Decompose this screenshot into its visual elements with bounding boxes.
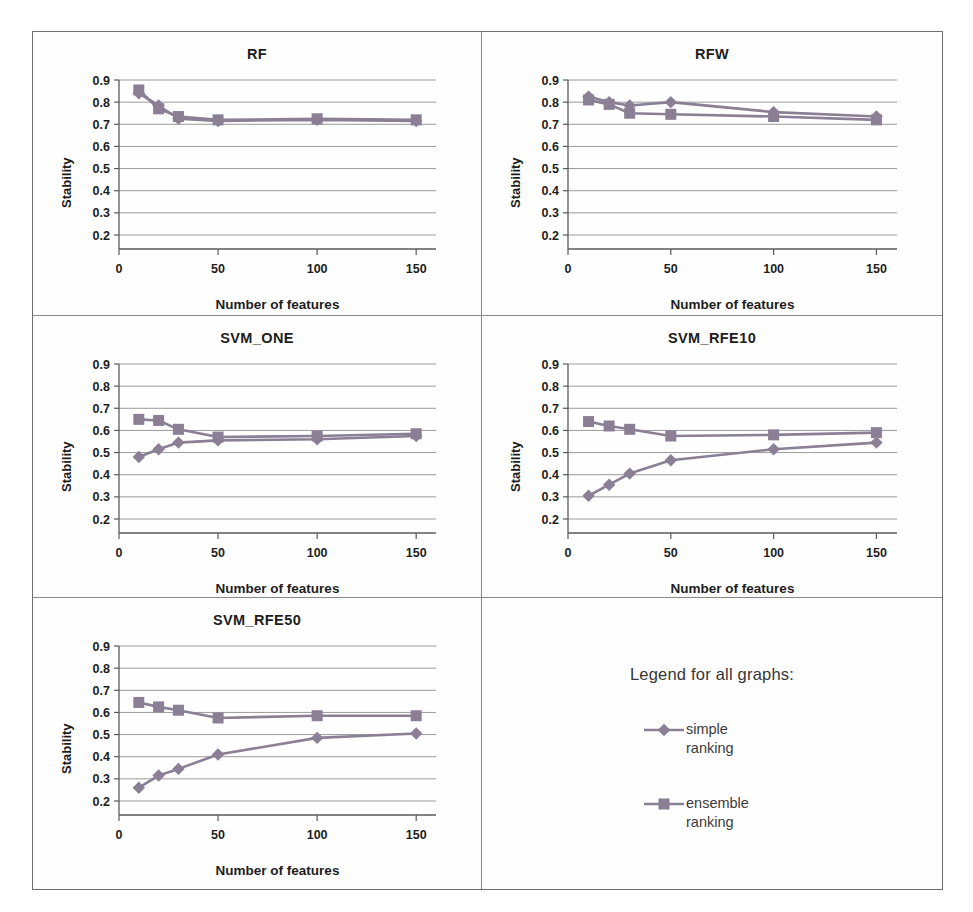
axes [563,364,897,539]
y-axis-title: Stability [508,441,523,492]
legend-item-simple-ranking: simpleranking [642,720,882,758]
square-marker [153,103,164,114]
diamond-marker [152,769,164,781]
square-marker [312,710,323,721]
y-tick-label: 0.9 [542,74,559,88]
y-tick-label: 0.7 [93,402,110,416]
y-tick-label: 0.4 [542,184,559,198]
y-tick-label: 0.8 [542,96,559,110]
x-tick-label: 50 [664,546,678,560]
y-tick-label: 0.5 [93,446,110,460]
chart-panel-svm-one: SVM_ONE 0.20.30.40.50.60.70.80.905010015… [33,316,482,598]
y-tick-label: 0.3 [542,206,559,220]
square-marker [871,427,882,438]
square-marker [624,424,635,435]
y-tick-label: 0.6 [542,140,559,154]
y-tick-label: 0.2 [93,513,110,527]
square-marker [213,432,224,443]
x-tick-label: 100 [763,262,784,276]
square-marker [133,697,144,708]
plot-svg: 0.20.30.40.50.60.70.80.9050100150 [33,32,481,315]
square-marker [133,414,144,425]
square-marker [604,99,615,110]
y-axis-title: Stability [59,441,74,492]
x-tick-label: 150 [406,262,427,276]
y-tick-label: 0.3 [93,772,110,786]
chart-panel-svm-rfe10: SVM_RFE10 0.20.30.40.50.60.70.80.9050100… [482,316,942,598]
gridlines [119,646,436,801]
legend-panel: Legend for all graphs: simpleranking [482,598,942,889]
x-tick-label: 0 [565,546,572,560]
square-marker [624,108,635,119]
legend-label-line1: ensemble [686,795,749,811]
diamond-marker [582,490,594,502]
square-marker [173,705,184,716]
y-tick-label: 0.5 [542,162,559,176]
x-tick-label: 0 [565,262,572,276]
square-marker [411,710,422,721]
x-tick-label: 0 [116,546,123,560]
chart-panel-rf: RF 0.20.30.40.50.60.70.80.9050100150Stab… [33,32,482,316]
square-marker [133,84,144,95]
square-marker [213,114,224,125]
legend-item-label: ensembleranking [686,794,749,832]
y-tick-label: 0.6 [93,424,110,438]
y-tick-label: 0.8 [93,662,110,676]
y-tick-label: 0.8 [542,380,559,394]
diamond-marker [410,727,422,739]
plot-svg: 0.20.30.40.50.60.70.80.9050100150 [33,316,481,597]
square-marker [665,109,676,120]
y-tick-label: 0.5 [93,728,110,742]
chart-panel-svm-rfe50: SVM_RFE50 0.20.30.40.50.60.70.80.9050100… [33,598,482,889]
plot-area: 0.20.30.40.50.60.70.80.9050100150Stabili… [33,316,481,597]
x-tick-label: 50 [211,546,225,560]
y-tick-label: 0.5 [542,446,559,460]
legend-label-line2: ranking [686,814,734,830]
y-tick-label: 0.2 [542,513,559,527]
square-marker [411,114,422,125]
square-marker [312,430,323,441]
legend-item-ensemble-ranking: ensembleranking [642,794,882,832]
series-line [589,443,877,496]
x-axis-title: Number of features [119,863,436,878]
plot-area: 0.20.30.40.50.60.70.80.9050100150Stabili… [482,316,942,597]
x-tick-label: 0 [116,828,123,842]
y-tick-label: 0.7 [542,118,559,132]
gridlines [119,364,436,519]
x-tick-label: 150 [406,828,427,842]
x-axis-title: Number of features [568,581,897,596]
chart-panel-rfw: RFW 0.20.30.40.50.60.70.80.9050100150Sta… [482,32,942,316]
y-tick-label: 0.6 [93,706,110,720]
y-tick-label: 0.3 [542,490,559,504]
y-tick-label: 0.9 [542,358,559,372]
y-tick-label: 0.6 [93,140,110,154]
x-tick-label: 50 [211,262,225,276]
y-tick-label: 0.7 [93,684,110,698]
x-axis-title: Number of features [119,581,436,596]
diamond-marker-icon [642,721,686,739]
diamond-marker [152,443,164,455]
square-marker [312,113,323,124]
x-tick-label: 50 [664,262,678,276]
square-marker [153,701,164,712]
square-marker [173,111,184,122]
y-tick-label: 0.3 [93,206,110,220]
square-marker [871,114,882,125]
y-axis-title: Stability [59,157,74,208]
diamond-marker [767,443,779,455]
square-marker [768,111,779,122]
x-tick-label: 50 [211,828,225,842]
x-tick-label: 150 [866,546,887,560]
y-tick-label: 0.3 [93,490,110,504]
legend-items: simpleranking ensembleranking [642,720,882,868]
diamond-marker [172,436,184,448]
diamond-marker [603,478,615,490]
y-tick-label: 0.2 [93,795,110,809]
series-line [139,733,416,787]
y-tick-label: 0.8 [93,380,110,394]
y-tick-label: 0.9 [93,74,110,88]
plot-area: 0.20.30.40.50.60.70.80.9050100150Stabili… [33,32,481,315]
square-marker [583,94,594,105]
diamond-marker [212,748,224,760]
y-tick-label: 0.4 [93,184,110,198]
